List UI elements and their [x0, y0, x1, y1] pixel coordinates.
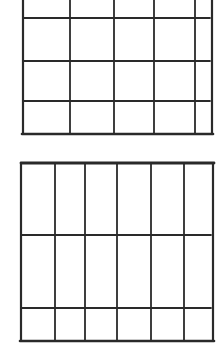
grid-diagram: [0, 0, 219, 344]
top-grid: [22, 0, 213, 134]
bottom-grid: [20, 163, 214, 341]
